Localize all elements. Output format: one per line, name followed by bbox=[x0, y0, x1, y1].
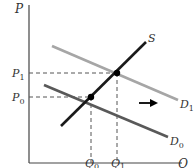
q0-label: Q0 bbox=[85, 157, 99, 168]
q1-label: Q1 bbox=[111, 157, 125, 168]
p0-label: P0 bbox=[11, 91, 25, 106]
shift-arrow-icon bbox=[139, 99, 158, 107]
supply-label: S bbox=[148, 32, 156, 45]
d1-label: D1 bbox=[179, 98, 194, 113]
equilibrium-point-e0 bbox=[88, 94, 94, 100]
supply-demand-diagram: P Q S D1 D0 P1 P0 bbox=[0, 0, 196, 168]
demand-curve-d0 bbox=[44, 85, 168, 137]
y-axis-label: P bbox=[14, 2, 24, 16]
x-axis-label: Q bbox=[178, 157, 188, 168]
equilibrium-point-e1 bbox=[114, 70, 120, 76]
p1-label: P1 bbox=[11, 67, 25, 82]
d0-label: D0 bbox=[169, 135, 184, 150]
